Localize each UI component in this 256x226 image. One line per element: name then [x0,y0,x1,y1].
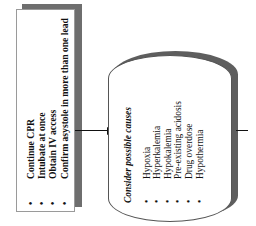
list-item: •Pre-existing acidosis [173,56,184,203]
list-item: •Confirm asystole in more than one lead [59,10,70,205]
action-text: Continue CPR [25,119,36,179]
list-item: •Continue CPR [25,10,36,205]
bullet-icon: • [163,179,174,203]
bullet-icon: • [173,179,184,203]
cause-text: Pre-existing acidosis [173,101,184,179]
outgoing-connector-line [236,130,248,131]
list-item: •Hyperkalemia [152,56,163,203]
action-text: Obtain IV access [47,110,58,179]
list-item: •Intubate at once [36,10,47,205]
action-text: Intubate at once [36,112,47,179]
bullet-icon: • [142,179,153,203]
bullet-icon: • [59,179,70,205]
bullet-icon: • [195,179,206,203]
cause-text: Hypoxia [142,147,153,179]
causes-title: Consider possible causes [123,56,134,203]
bullet-icon: • [47,179,58,205]
list-item: •Obtain IV access [47,10,58,205]
cause-text: Hypothermia [195,130,206,179]
list-item: •Hypoxia [142,56,153,203]
list-item: •Drug overdose [184,56,195,203]
causes-list: Consider possible causes •Hypoxia •Hyper… [109,56,233,223]
bullet-icon: • [36,179,47,205]
action-text: Confirm asystole in more than one lead [59,18,70,179]
connector-arrow-line [75,130,109,131]
cause-text: Hyperkalemia [152,126,163,179]
cause-text: Hypokalemia [163,128,174,179]
bullet-icon: • [184,179,195,203]
cause-text: Drug overdose [184,124,195,179]
causes-box: Consider possible causes •Hypoxia •Hyper… [108,55,232,222]
actions-box: •Continue CPR •Intubate at once •Obtain … [16,9,75,212]
bullet-icon: • [25,179,36,205]
list-item: •Hypokalemia [163,56,174,203]
bullet-icon: • [152,179,163,203]
list-item: •Hypothermia [195,56,206,203]
actions-list: •Continue CPR •Intubate at once •Obtain … [17,10,76,213]
